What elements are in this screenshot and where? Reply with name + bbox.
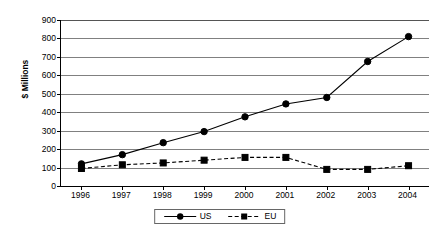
x-axis-tick-label: 1998 bbox=[153, 190, 172, 200]
y-axis-tick bbox=[57, 94, 61, 95]
legend-entry-us[interactable]: US bbox=[163, 212, 212, 221]
gridline bbox=[61, 20, 429, 21]
y-axis-tick bbox=[57, 168, 61, 169]
gridline bbox=[61, 168, 429, 169]
x-axis-tick-labels: 199619971998199920002001200220032004 bbox=[60, 190, 428, 204]
series-layer bbox=[61, 20, 429, 186]
data-point-square bbox=[283, 154, 289, 160]
x-axis-tick-label: 2000 bbox=[235, 190, 254, 200]
y-axis-tick-label: 400 bbox=[28, 108, 56, 117]
gridline bbox=[61, 38, 429, 39]
plot-area bbox=[60, 20, 429, 187]
legend-swatch-us bbox=[163, 212, 197, 221]
gridline bbox=[61, 57, 429, 58]
chart-legend: USEU bbox=[154, 209, 286, 224]
y-axis-tick bbox=[57, 112, 61, 113]
y-axis-tick bbox=[57, 75, 61, 76]
x-axis-tick-label: 2001 bbox=[275, 190, 294, 200]
data-point-square bbox=[242, 154, 248, 160]
gridline bbox=[61, 112, 429, 113]
x-axis-tick-label: 2002 bbox=[316, 190, 335, 200]
y-axis-tick-label: 800 bbox=[28, 34, 56, 43]
gridline bbox=[61, 75, 429, 76]
y-axis-tick-label: 100 bbox=[28, 164, 56, 173]
series-line bbox=[81, 37, 408, 164]
y-axis-tick-label: 900 bbox=[28, 16, 56, 25]
series-us bbox=[78, 33, 412, 167]
x-axis-tick-label: 1996 bbox=[71, 190, 90, 200]
data-point-circle bbox=[119, 151, 125, 157]
line-chart: $ Millions 0100200300400500600700800900 … bbox=[0, 0, 439, 236]
data-point-circle bbox=[78, 161, 84, 167]
data-point-circle bbox=[364, 58, 370, 64]
y-axis-tick bbox=[57, 20, 61, 21]
data-point-circle bbox=[160, 139, 166, 145]
y-axis-tick bbox=[57, 38, 61, 39]
x-axis-tick-label: 1999 bbox=[194, 190, 213, 200]
gridline bbox=[61, 131, 429, 132]
y-axis-tick-label: 0 bbox=[28, 182, 56, 191]
series-eu bbox=[78, 154, 411, 172]
y-axis-tick-label: 200 bbox=[28, 145, 56, 154]
y-axis-tick-label: 500 bbox=[28, 90, 56, 99]
data-point-square bbox=[201, 157, 207, 163]
data-point-circle bbox=[324, 94, 330, 100]
y-axis-tick bbox=[57, 186, 61, 187]
x-axis-tick-label: 2003 bbox=[357, 190, 376, 200]
gridline bbox=[61, 94, 429, 95]
x-axis-tick-label: 2004 bbox=[398, 190, 417, 200]
legend-label: US bbox=[200, 212, 212, 221]
data-point-circle bbox=[242, 114, 248, 120]
y-axis-tick bbox=[57, 57, 61, 58]
gridline bbox=[61, 149, 429, 150]
legend-entry-eu[interactable]: EU bbox=[228, 212, 277, 221]
y-axis-tick bbox=[57, 131, 61, 132]
data-point-circle bbox=[283, 101, 289, 107]
y-axis-tick bbox=[57, 149, 61, 150]
legend-swatch-eu bbox=[228, 212, 262, 221]
y-axis-tick-label: 600 bbox=[28, 71, 56, 80]
y-axis-tick-label: 300 bbox=[28, 127, 56, 136]
legend-label: EU bbox=[265, 212, 277, 221]
data-point-square bbox=[160, 160, 166, 166]
x-axis-tick-label: 1997 bbox=[112, 190, 131, 200]
y-axis-tick-label: 700 bbox=[28, 53, 56, 62]
y-axis-tick-labels: 0100200300400500600700800900 bbox=[28, 0, 56, 236]
